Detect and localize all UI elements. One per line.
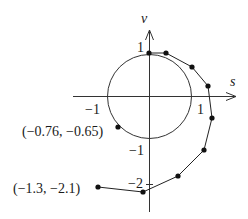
point-0 — [146, 50, 151, 55]
tick-label-y-neg-two: −2 — [128, 176, 143, 191]
s-axis-label: s — [230, 74, 236, 89]
point-4 — [209, 115, 214, 120]
point-3 — [205, 83, 210, 88]
tick-label-y-neg-one: −1 — [129, 143, 144, 158]
diagram-figure: s v 1 1 −1 −1 −2 (−0.76, −0.65) (−1.3, −… — [0, 0, 248, 219]
tick-label-x-pos-one: 1 — [197, 102, 204, 117]
circle-point — [115, 124, 120, 129]
tick-label-x-neg-one: −1 — [85, 102, 100, 117]
point-2 — [189, 64, 194, 69]
iteration-path — [98, 53, 212, 192]
tick-label-y-pos-one: 1 — [137, 40, 144, 55]
point-end — [95, 184, 100, 189]
circle-point-annotation: (−0.76, −0.65) — [22, 124, 103, 140]
v-axis-label: v — [141, 11, 148, 26]
point-1 — [163, 50, 168, 55]
point-5 — [201, 147, 206, 152]
end-point-annotation: (−1.3, −2.1) — [13, 181, 80, 197]
point-6 — [175, 173, 180, 178]
